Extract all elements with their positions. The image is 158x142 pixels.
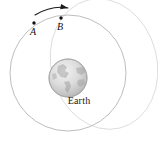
orbit-diagram: A B Earth [0, 0, 158, 142]
direction-of-motion-arrow [35, 4, 68, 15]
point-B-dot [59, 16, 62, 19]
point-A-label: A [30, 27, 36, 37]
point-A-dot [32, 21, 35, 24]
point-B-label: B [57, 22, 63, 32]
diagram-canvas [0, 0, 158, 142]
earth-globe [49, 59, 87, 97]
earth-label: Earth [0, 96, 158, 106]
